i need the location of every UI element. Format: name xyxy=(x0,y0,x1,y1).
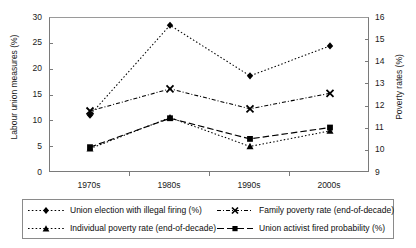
data-point-marker xyxy=(167,115,173,121)
data-point-marker xyxy=(167,85,174,92)
y-axis-right-tick-label: 15 xyxy=(375,34,397,44)
y-axis-right-tick-label: 12 xyxy=(375,100,397,110)
data-point-marker xyxy=(87,144,93,150)
legend-item-union-election: Union election with illegal firing (%) xyxy=(27,205,216,216)
y-axis-left-tickmark xyxy=(49,146,53,147)
data-point-marker xyxy=(247,72,253,79)
y-axis-left-tick-label: 5 xyxy=(20,141,42,151)
data-series-layer xyxy=(50,18,370,173)
y-axis-left-tick-label: 0 xyxy=(20,167,42,177)
chart-container: Labour union measures (%) Poverty rates … xyxy=(0,0,416,248)
data-point-marker xyxy=(167,22,173,29)
y-axis-right-tick-label: 11 xyxy=(375,122,397,132)
legend-item-union-activist: Union activist fired probability (%) xyxy=(216,223,394,234)
x-axis-tick-label: 1970s xyxy=(59,180,119,190)
y-axis-left-tick-label: 30 xyxy=(20,12,42,22)
y-axis-left-tick-label: 10 xyxy=(20,115,42,125)
data-point-marker xyxy=(327,125,333,131)
legend-item-family-poverty: Family poverty rate (end-of-decade) xyxy=(216,205,394,216)
y-axis-left-tick-label: 25 xyxy=(20,37,42,47)
x-axis-tickmark xyxy=(129,172,130,176)
y-axis-left-tickmark xyxy=(49,95,53,96)
x-axis-tickmark xyxy=(209,172,210,176)
x-axis-tick-label: 1980s xyxy=(139,180,199,190)
triangle-dotted-key-icon xyxy=(27,223,65,234)
chart-legend: Union election with illegal firing (%) F… xyxy=(22,199,394,239)
y-axis-title-left: Labour union measures (%) xyxy=(9,17,19,157)
square-dashed-key-icon xyxy=(216,223,254,234)
data-point-marker xyxy=(247,105,254,112)
legend-label: Individual poverty rate (end-of-decade) xyxy=(69,224,216,233)
y-axis-left-tick-label: 15 xyxy=(20,89,42,99)
y-axis-left-tickmark xyxy=(49,43,53,44)
y-axis-right-tickmark xyxy=(365,106,369,107)
data-point-marker xyxy=(247,136,253,142)
plot-area xyxy=(49,17,369,172)
y-axis-right-tick-label: 9 xyxy=(375,167,397,177)
y-axis-right-tickmark xyxy=(365,61,369,62)
y-axis-right-tickmark xyxy=(365,83,369,84)
y-axis-right-tick-label: 16 xyxy=(375,12,397,22)
y-axis-right-tickmark xyxy=(365,128,369,129)
y-axis-right-tickmark xyxy=(365,39,369,40)
series-line xyxy=(90,25,330,115)
y-axis-left-tick-label: 20 xyxy=(20,63,42,73)
x-axis-tick-label: 1990s xyxy=(219,180,279,190)
legend-item-individual-poverty: Individual poverty rate (end-of-decade) xyxy=(27,223,216,234)
x-axis-tickmark xyxy=(289,172,290,176)
series-line xyxy=(90,118,330,147)
legend-label: Union activist fired probability (%) xyxy=(258,224,385,233)
legend-label: Union election with illegal firing (%) xyxy=(69,206,202,215)
series-line xyxy=(90,89,330,111)
y-axis-left-tickmark xyxy=(49,69,53,70)
y-axis-right-tick-label: 10 xyxy=(375,144,397,154)
diamond-dotted-key-icon xyxy=(27,205,65,216)
x-dashdot-key-icon xyxy=(216,205,254,216)
y-axis-left-tickmark xyxy=(49,120,53,121)
y-axis-right-tickmark xyxy=(365,150,369,151)
data-point-marker xyxy=(327,42,333,49)
y-axis-right-tick-label: 13 xyxy=(375,78,397,88)
y-axis-right-tick-label: 14 xyxy=(375,56,397,66)
x-axis-tick-label: 2000s xyxy=(299,180,359,190)
legend-label: Family poverty rate (end-of-decade) xyxy=(258,206,394,215)
